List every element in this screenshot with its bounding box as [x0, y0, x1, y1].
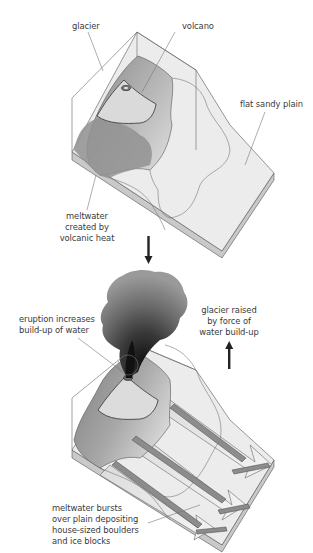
label-line: over plain depositing — [52, 514, 139, 525]
label-eruption: eruption increases build-up of water — [19, 314, 95, 336]
label-line: volcanic heat — [58, 233, 116, 244]
label-glacier: glacier — [72, 21, 100, 32]
label-line: meltwater bursts — [52, 503, 139, 514]
down-arrow-icon — [145, 236, 153, 264]
label-meltwater-bursts: meltwater bursts over plain depositing h… — [52, 503, 139, 547]
label-volcano: volcano — [182, 21, 214, 32]
label-line: created by — [58, 222, 116, 233]
label-line: glacier raised — [196, 305, 262, 316]
label-line: water build-up — [196, 327, 262, 338]
label-line: and ice blocks — [52, 536, 139, 547]
jokulhlaup-diagram — [0, 0, 313, 553]
label-meltwater: meltwater created by volcanic heat — [58, 211, 116, 244]
label-line: house-sized boulders — [52, 525, 139, 536]
label-line: build-up of water — [19, 325, 95, 336]
label-glacier-raised: glacier raised by force of water build-u… — [196, 305, 262, 338]
label-line: meltwater — [58, 211, 116, 222]
label-flat-sandy-plain: flat sandy plain — [240, 99, 303, 110]
label-line: by force of — [196, 316, 262, 327]
up-arrow-icon — [225, 341, 233, 369]
label-line: eruption increases — [19, 314, 95, 325]
